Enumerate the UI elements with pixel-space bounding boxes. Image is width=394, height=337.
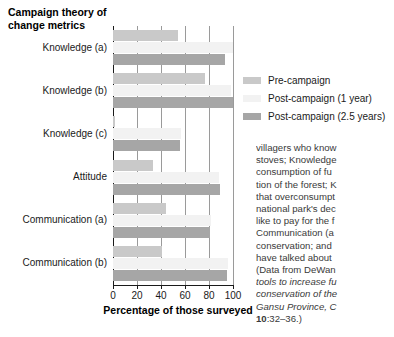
category-label: Attitude [0,171,107,182]
bar [113,30,178,41]
bar-group [113,116,233,151]
caption-italic-line: tools to increase fu [256,276,394,288]
bar [113,128,181,139]
x-tick-label: 0 [110,290,116,301]
caption-italic-line: conservation of the [256,288,394,300]
x-tick-mark [113,285,114,289]
plot-area [113,26,233,285]
x-tick-mark [233,285,234,289]
bar [113,116,115,127]
legend-swatch [243,113,261,120]
caption-line: Communication (a [256,227,394,239]
bar [113,227,210,238]
legend-label: Post-campaign (2.5 years) [268,111,385,122]
legend-item: Post-campaign (2.5 years) [243,108,385,124]
caption-line: national park's dec [256,203,394,215]
bar [113,42,233,53]
bar [113,172,219,183]
caption-pages: :32–36.) [267,313,302,324]
bar [113,160,153,171]
caption-line: consumption of fu [256,166,394,178]
caption-source-line: (Data from DeWan [256,264,394,276]
x-tick-mark [137,285,138,289]
x-tick-label: 40 [155,290,166,301]
bar-group [113,246,233,281]
x-tick-label: 60 [179,290,190,301]
bar-group [113,160,233,195]
category-label: Knowledge (c) [0,128,107,139]
figure-bar-chart: Campaign theory of change metrics 020406… [0,0,394,337]
x-tick-mark [185,285,186,289]
caption-line: like to pay for the f [256,215,394,227]
caption-italic-line: Gansu Province, C [256,301,394,313]
x-axis-title: Percentage of those surveyed [98,304,258,316]
gridline [233,26,234,285]
category-label: Knowledge (b) [0,85,107,96]
bar-group [113,30,233,65]
legend-item: Pre-campaign [243,72,385,88]
caption-text: villagers who knowstoves; Knowledgeconsu… [256,142,394,332]
caption-volume-line: 10:32–36.) [256,313,394,325]
caption-line: have talked about [256,252,394,264]
bar [113,140,180,151]
legend-label: Pre-campaign [268,75,330,86]
caption-line: conservation; and [256,240,394,252]
bar [113,270,227,281]
legend: Pre-campaignPost-campaign (1 year)Post-c… [243,72,385,126]
bar-group [113,73,233,108]
bar [113,203,166,214]
bar [113,215,211,226]
legend-swatch [243,77,261,84]
caption-line: that overconsumpt [256,191,394,203]
chart-title: Campaign theory of change metrics [8,6,116,32]
caption-line: villagers who know [256,142,394,154]
bar [113,85,231,96]
bar-group [113,203,233,238]
legend-label: Post-campaign (1 year) [268,93,372,104]
x-tick-mark [161,285,162,289]
category-label: Knowledge (a) [0,42,107,53]
legend-item: Post-campaign (1 year) [243,90,385,106]
bar [113,246,162,257]
caption-line: tion of the forest; K [256,179,394,191]
bar [113,97,233,108]
x-tick-label: 80 [203,290,214,301]
bar [113,258,228,269]
category-label: Communication (b) [0,257,107,268]
caption-volume: 10 [256,313,267,324]
x-tick-mark [209,285,210,289]
legend-swatch [243,95,261,102]
caption-line: stoves; Knowledge [256,154,394,166]
bar [113,73,205,84]
bar [113,184,220,195]
x-tick-label: 100 [225,290,242,301]
x-tick-label: 20 [131,290,142,301]
bar [113,54,225,65]
category-label: Communication (a) [0,214,107,225]
